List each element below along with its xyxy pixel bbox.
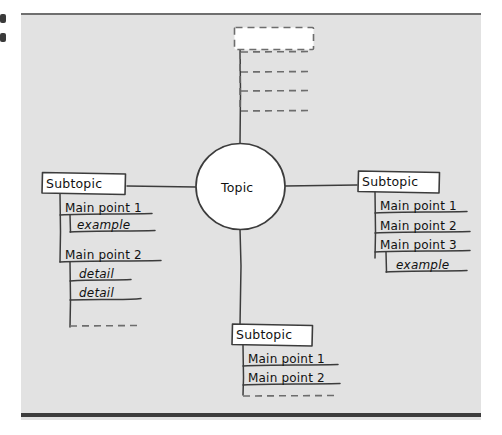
branch-left-heading-label: Subtopic — [46, 176, 102, 191]
connector-right — [285, 185, 357, 186]
branch-left-item-label-0: Main point 1 — [65, 201, 142, 215]
branch-top-item-rule-3 — [241, 111, 313, 112]
branch-top-heading-box[interactable] — [235, 28, 314, 50]
branch-bottom-heading-label: Subtopic — [236, 327, 292, 342]
branch-top-item-rule-2 — [241, 91, 313, 92]
branch-right-indent-0 — [386, 252, 387, 272]
branch-top-item-rule-1 — [241, 72, 313, 73]
branch-bottom-item-rule-2 — [243, 396, 338, 397]
mindmap-canvas: .ink { stroke:#3c3c3c; fill:none; stroke… — [0, 0, 502, 435]
branch-right-heading-label: Subtopic — [362, 174, 418, 189]
center-topic-label: Topic — [221, 180, 253, 195]
branch-right-item-label-3: example — [396, 258, 449, 272]
branch-right-item-label-0: Main point 1 — [380, 199, 457, 213]
branch-bottom-item-label-1: Main point 2 — [248, 371, 325, 385]
connector-down — [240, 229, 241, 325]
branch-right-item-label-1: Main point 2 — [380, 219, 457, 233]
branch-left-item-label-1: example — [77, 218, 130, 232]
branch-left-item-label-3: detail — [79, 267, 114, 281]
branch-right-item-label-2: Main point 3 — [380, 238, 457, 252]
branch-left-item-label-4: detail — [79, 286, 114, 300]
mindmap-page: .ink { stroke:#3c3c3c; fill:none; stroke… — [0, 0, 502, 435]
branch-top[interactable] — [235, 28, 314, 112]
branch-left-item-rule-5 — [70, 326, 139, 327]
connector-left — [127, 186, 196, 187]
branch-left-item-label-2: Main point 2 — [65, 248, 142, 262]
branch-top-item-rule-0 — [241, 52, 313, 53]
branch-bottom-item-label-0: Main point 1 — [248, 352, 325, 366]
branch-left-indent-0 — [70, 215, 71, 232]
